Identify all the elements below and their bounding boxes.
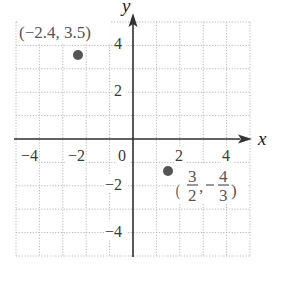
x-tick-label: 0 [118,147,126,164]
x-tick-label: −4 [21,147,38,164]
fraction-denominator: 2 [188,186,197,205]
data-point [73,50,83,60]
y-tick-label: 4 [114,35,122,52]
coordinate-plane: x y −4 −2 0 2 4 4 2 −2 −4 (−2.4, 3.5) ( … [0,0,284,282]
svg-text:,: , [199,177,203,196]
fraction-numerator: 4 [219,167,228,186]
fraction-denominator: 3 [219,186,228,205]
x-axis-label: x [257,128,267,149]
point-label: (−2.4, 3.5) [19,23,91,42]
svg-text:(: ( [176,181,180,200]
x-tick-label: 2 [175,147,183,164]
data-point [163,166,173,176]
point-label-fraction: ( 3 2 , 4 3 ) [176,164,248,205]
fraction-numerator: 3 [188,167,197,186]
y-tick-label: −4 [105,223,122,240]
svg-text:): ) [231,181,237,200]
y-tick-label: 2 [114,82,122,99]
x-tick-label: −2 [68,147,85,164]
y-axis-label: y [120,0,131,16]
y-tick-label: −2 [105,176,122,193]
x-tick-label: 4 [222,147,230,164]
